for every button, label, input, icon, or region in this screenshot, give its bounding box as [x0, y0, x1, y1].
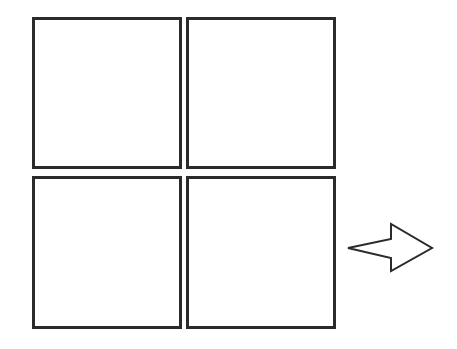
arrow-right-icon — [0, 0, 457, 349]
